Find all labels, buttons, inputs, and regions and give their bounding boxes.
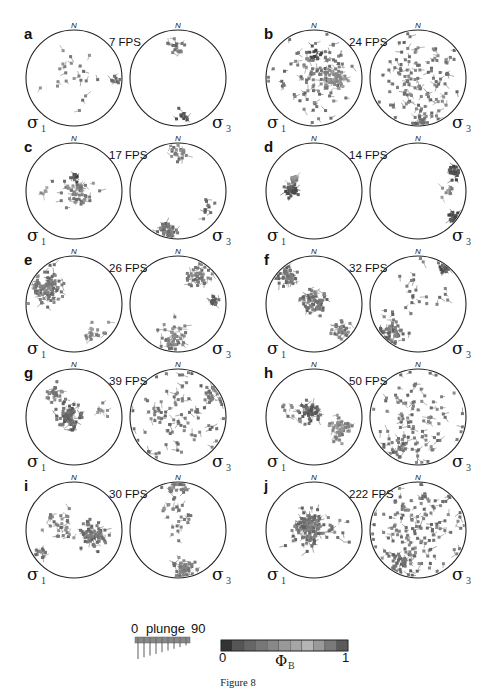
data-point xyxy=(337,62,340,65)
data-point xyxy=(396,439,399,442)
data-point xyxy=(60,199,63,202)
data-point xyxy=(424,434,427,437)
data-point xyxy=(338,432,341,435)
data-point xyxy=(180,413,183,416)
colorbar-swatch xyxy=(313,640,325,651)
data-point xyxy=(306,550,309,553)
data-point xyxy=(175,574,178,577)
data-point xyxy=(411,407,414,410)
data-point xyxy=(101,536,104,539)
data-point xyxy=(340,71,343,74)
data-point xyxy=(417,448,420,451)
data-point xyxy=(438,536,441,539)
data-point xyxy=(449,56,452,59)
data-point xyxy=(300,75,303,78)
data-point xyxy=(414,289,417,292)
data-point xyxy=(314,42,317,45)
data-point xyxy=(209,211,212,214)
data-point xyxy=(70,62,73,65)
data-point xyxy=(79,547,82,550)
data-point xyxy=(429,98,432,101)
data-point xyxy=(388,437,391,440)
north-label: N xyxy=(175,21,181,30)
stereonet-sigma1: N xyxy=(262,21,362,126)
data-point xyxy=(440,406,443,409)
data-point xyxy=(40,301,43,304)
data-point xyxy=(443,529,446,532)
data-point xyxy=(443,519,446,522)
data-point xyxy=(411,448,414,451)
plunge-scale xyxy=(135,637,190,659)
data-point xyxy=(296,64,299,67)
data-point xyxy=(203,406,206,409)
colorbar-max-label: 1 xyxy=(342,650,349,665)
data-point xyxy=(62,49,65,52)
data-point xyxy=(283,409,286,412)
sigma3-label: σ xyxy=(452,451,464,471)
data-point xyxy=(177,520,180,523)
data-point xyxy=(331,70,334,73)
data-point xyxy=(176,524,179,527)
data-point xyxy=(310,293,313,296)
data-point xyxy=(180,451,183,454)
fps-label: 26 FPS xyxy=(109,262,148,274)
data-point xyxy=(399,495,402,498)
data-point xyxy=(181,156,184,159)
data-point xyxy=(117,81,120,84)
data-point xyxy=(383,315,386,318)
data-point xyxy=(431,505,434,508)
data-point xyxy=(72,184,75,187)
data-point xyxy=(146,399,149,402)
data-point xyxy=(338,519,341,522)
stereonet-sigma1: N xyxy=(266,247,362,352)
data-point xyxy=(432,47,435,50)
data-point xyxy=(401,514,404,517)
data-point xyxy=(410,72,413,75)
data-point xyxy=(403,106,406,109)
data-point xyxy=(325,536,328,539)
data-point xyxy=(403,435,406,438)
phi-colorbar: 0 1 Φ B xyxy=(219,640,349,671)
data-point xyxy=(190,433,193,436)
data-point xyxy=(405,537,408,540)
data-point xyxy=(297,193,300,196)
data-point xyxy=(442,413,445,416)
data-point xyxy=(436,408,439,411)
data-point xyxy=(302,298,305,301)
data-point xyxy=(181,399,184,402)
data-point xyxy=(445,58,448,61)
data-point xyxy=(314,525,317,528)
data-point xyxy=(79,65,82,68)
data-point xyxy=(302,511,305,514)
data-point xyxy=(324,109,327,112)
data-point xyxy=(57,280,60,283)
fps-label: 50 FPS xyxy=(349,375,388,387)
data-point xyxy=(314,514,317,517)
data-point xyxy=(438,439,441,442)
data-point xyxy=(171,327,174,330)
sigma3-sub: 3 xyxy=(466,462,471,473)
data-point xyxy=(44,292,47,295)
data-point xyxy=(399,373,402,376)
north-label: N xyxy=(311,473,317,482)
data-point xyxy=(410,390,413,393)
data-point xyxy=(456,174,459,177)
data-point xyxy=(115,77,118,80)
panel-i: NNi30 FPSσ1σ3 xyxy=(24,473,231,586)
data-point xyxy=(74,201,77,204)
data-point xyxy=(68,507,71,510)
sigma1-label: σ xyxy=(27,112,39,132)
data-point xyxy=(426,527,429,530)
data-point xyxy=(175,117,178,120)
data-point xyxy=(172,418,175,421)
data-point xyxy=(420,461,423,464)
data-point xyxy=(402,442,405,445)
data-point xyxy=(193,438,196,441)
data-point xyxy=(185,381,188,384)
data-point xyxy=(418,68,421,71)
colorbar-symbol-sub: B xyxy=(288,660,295,671)
data-point xyxy=(340,54,343,57)
data-point xyxy=(439,71,442,74)
data-point xyxy=(430,112,433,115)
data-point xyxy=(418,497,421,500)
